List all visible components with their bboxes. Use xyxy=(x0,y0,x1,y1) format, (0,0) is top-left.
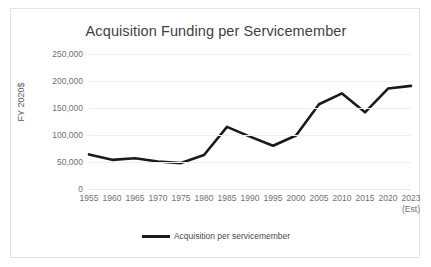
x-axis-tick-label: 2005 xyxy=(310,193,329,203)
y-axis-tick-label: 0 xyxy=(23,184,83,194)
x-axis-tick-label: 2020 xyxy=(379,193,398,203)
y-axis-tick-labels: 050,000100,000150,000200,000250,000 xyxy=(19,54,83,189)
chart-container: Acquisition Funding per Servicemember FY… xyxy=(10,8,420,258)
x-axis-tick-label: 1980 xyxy=(195,193,214,203)
x-axis-tick-label: 2023 xyxy=(402,193,421,203)
y-axis-tick-label: 250,000 xyxy=(23,49,83,59)
gridline xyxy=(89,189,411,190)
legend-label: Acquisition per servicemember xyxy=(174,231,290,241)
x-axis-tick-label: 1955 xyxy=(80,193,99,203)
x-axis-tick-label: 2010 xyxy=(333,193,352,203)
y-axis-tick-label: 100,000 xyxy=(23,130,83,140)
x-axis-tick-label: 1960 xyxy=(103,193,122,203)
legend-line-swatch-icon xyxy=(142,235,170,238)
x-axis-tick-sublabel: (Est) xyxy=(402,204,420,214)
chart-title: Acquisition Funding per Servicemember xyxy=(11,23,421,39)
x-axis-tick-label: 1995 xyxy=(264,193,283,203)
gridline xyxy=(89,81,411,82)
chart-legend: Acquisition per servicemember xyxy=(11,231,421,241)
y-axis-tick-label: 200,000 xyxy=(23,76,83,86)
gridline xyxy=(89,135,411,136)
y-axis-tick-label: 50,000 xyxy=(23,157,83,167)
line-series-acquisition-per-servicemember xyxy=(89,54,411,189)
gridline xyxy=(89,108,411,109)
x-axis-tick-label: 1965 xyxy=(126,193,145,203)
gridline xyxy=(89,54,411,55)
gridline xyxy=(89,162,411,163)
x-axis-tick-label: 2000 xyxy=(287,193,306,203)
x-axis-tick-label: 1985 xyxy=(218,193,237,203)
x-axis-tick-label: 1990 xyxy=(241,193,260,203)
x-axis-tick-labels: 1955196019651970197519801985199019952000… xyxy=(89,193,411,223)
plot-area xyxy=(89,54,411,189)
x-axis-tick-label: 1975 xyxy=(172,193,191,203)
x-axis-tick-label: 1970 xyxy=(149,193,168,203)
y-axis-tick-label: 150,000 xyxy=(23,103,83,113)
x-axis-tick-label: 2015 xyxy=(356,193,375,203)
